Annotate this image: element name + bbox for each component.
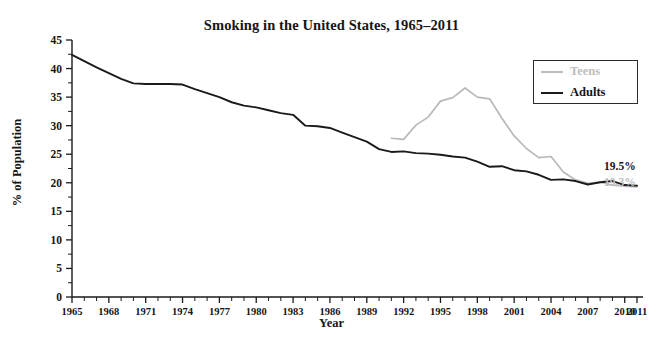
y-tick-label: 45 — [51, 34, 63, 46]
chart-figure: Smoking in the United States, 1965–2011 … — [0, 0, 663, 342]
y-tick-label: 30 — [51, 120, 63, 132]
end-label-teens: 19.3% — [604, 176, 636, 188]
end-label-adults: 19.5% — [604, 160, 636, 172]
x-tick-label: 2007 — [577, 306, 598, 317]
legend-label-teens: Teens — [570, 65, 600, 78]
x-tick-label: 1989 — [356, 306, 377, 317]
legend-swatch-adults — [541, 92, 563, 94]
legend-item-teens: Teens — [534, 61, 637, 82]
y-tick-label: 20 — [51, 177, 63, 189]
x-tick-label: 1971 — [135, 306, 156, 317]
chart-legend: Teens Adults — [533, 60, 638, 104]
x-tick-label: 1998 — [467, 306, 488, 317]
y-tick-label: 15 — [51, 205, 63, 217]
x-tick-label: 1986 — [319, 306, 340, 317]
x-tick-label: 1992 — [393, 306, 414, 317]
y-tick-label: 0 — [56, 291, 62, 303]
y-tick-label: 40 — [51, 63, 63, 75]
x-tick-label: 1965 — [62, 306, 83, 317]
y-tick-label: 25 — [51, 148, 63, 160]
y-tick-label: 10 — [51, 234, 63, 246]
plot-area: 0510152025303540451965196819711974197719… — [0, 0, 663, 342]
y-tick-label: 35 — [51, 91, 63, 103]
x-tick-label: 2001 — [504, 306, 525, 317]
x-tick-label: 1983 — [283, 306, 304, 317]
x-tick-label: 1995 — [430, 306, 451, 317]
x-tick-label: 2004 — [541, 306, 563, 317]
x-tick-label: 2011 — [627, 306, 647, 317]
x-tick-label: 1974 — [172, 306, 194, 317]
legend-label-adults: Adults — [570, 86, 605, 99]
legend-swatch-teens — [541, 71, 563, 73]
x-tick-label: 1977 — [209, 306, 230, 317]
x-tick-label: 1980 — [246, 306, 267, 317]
x-tick-label: 1968 — [98, 306, 119, 317]
legend-item-adults: Adults — [534, 82, 637, 103]
y-tick-label: 5 — [56, 262, 62, 274]
